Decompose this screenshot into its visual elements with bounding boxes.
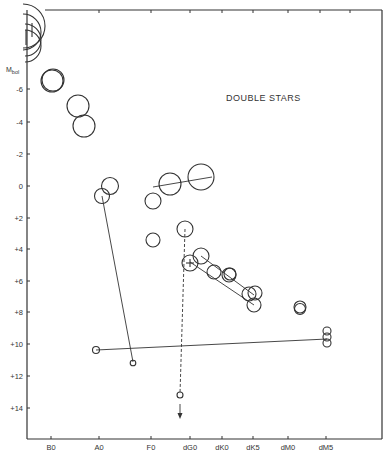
pair-line-dashed <box>180 229 185 394</box>
star-circle <box>67 95 89 117</box>
star-circle <box>207 265 221 279</box>
pair-line <box>102 196 133 362</box>
pair-line <box>201 256 254 295</box>
x-tick-label: B0 <box>46 443 55 452</box>
x-tick-label: dK0 <box>215 443 228 452</box>
pair-line <box>96 339 327 350</box>
y-tick-label: +10 <box>10 340 23 349</box>
star-circle <box>102 178 119 195</box>
star-points <box>23 4 331 398</box>
y-tick-label: -4 <box>16 118 23 127</box>
star-circle <box>323 339 331 347</box>
star-circle <box>73 115 95 137</box>
y-tick-label: -6 <box>16 85 23 94</box>
y-tick-label: +4 <box>14 245 23 254</box>
y-tick-label: +6 <box>14 277 23 286</box>
y-tick-label: +8 <box>14 308 23 317</box>
y-tick-label: +2 <box>14 214 23 223</box>
x-tick-label: A0 <box>94 443 103 452</box>
x-tick-label: F0 <box>147 443 156 452</box>
y-axis-label: Mbol <box>6 66 19 75</box>
x-tick-label: dG0 <box>183 443 197 452</box>
star-circle <box>193 248 209 264</box>
pair-line <box>153 177 212 187</box>
y-tick-label: +14 <box>10 404 23 413</box>
y-tick-label: 0 <box>19 182 23 191</box>
x-tick-label: dM5 <box>319 443 334 452</box>
hr-diagram-double-stars: -6 -4 -2 0 +2 +4 +6 +8 +10 +12 +14 Mbol … <box>0 0 392 459</box>
chart-title: DOUBLE STARS <box>226 93 301 103</box>
y-tick-label: +12 <box>10 372 23 381</box>
star-circle <box>42 69 64 91</box>
star-circle <box>294 301 306 313</box>
star-circle <box>146 233 160 247</box>
y-tick-label: -2 <box>16 150 23 159</box>
star-circle <box>177 392 183 398</box>
star-circle <box>145 193 161 209</box>
plot-frame <box>27 10 382 439</box>
arrow-down-icon <box>178 404 183 419</box>
x-tick-label: dM0 <box>281 443 296 452</box>
x-tick-label: dK5 <box>246 443 259 452</box>
